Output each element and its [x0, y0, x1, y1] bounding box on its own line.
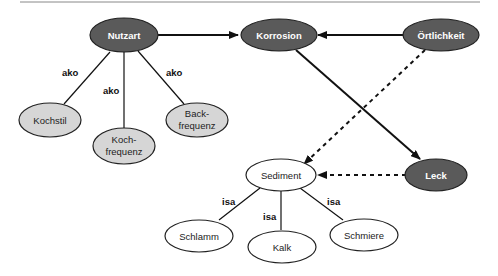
svg-text:frequenz: frequenz — [179, 120, 216, 131]
node-schmiere: Schmiere — [330, 219, 398, 251]
svg-text:Korrosion: Korrosion — [256, 30, 302, 41]
node-kochstil: Kochstil — [19, 103, 81, 137]
svg-text:Koch-: Koch- — [112, 134, 137, 145]
node-oertlichkeit: Örtlichkeit — [403, 19, 479, 51]
node-schlamm: Schlamm — [165, 220, 233, 252]
svg-text:Schmiere: Schmiere — [344, 230, 384, 241]
node-kalk: Kalk — [248, 231, 316, 263]
label-isa-schlamm: isa — [222, 196, 236, 207]
svg-text:Nutzart: Nutzart — [108, 30, 142, 41]
svg-text:frequenz: frequenz — [106, 146, 143, 157]
node-backfrequenz: Back- frequenz — [166, 103, 228, 137]
svg-text:Back-: Back- — [185, 108, 209, 119]
node-leck: Leck — [405, 159, 467, 191]
label-isa-kalk: isa — [263, 211, 277, 222]
node-sediment: Sediment — [246, 159, 316, 191]
label-ako-kochfrequenz: ako — [103, 85, 120, 96]
concept-diagram: ako ako ako isa isa isa Nutzart Korrosio… — [0, 0, 498, 276]
node-nutzart: Nutzart — [90, 18, 158, 52]
svg-text:Örtlichkeit: Örtlichkeit — [418, 30, 466, 41]
svg-text:Leck: Leck — [425, 170, 447, 181]
svg-text:Schlamm: Schlamm — [179, 231, 219, 242]
node-korrosion: Korrosion — [241, 19, 317, 51]
isa-edges — [219, 188, 343, 230]
edge-korrosion-leck — [296, 50, 420, 159]
label-ako-kochstil: ako — [62, 67, 79, 78]
label-ako-backfrequenz: ako — [166, 67, 183, 78]
svg-text:Sediment: Sediment — [261, 170, 301, 181]
node-kochfrequenz: Koch- frequenz — [93, 128, 155, 164]
label-isa-schmiere: isa — [327, 196, 341, 207]
svg-text:Kalk: Kalk — [273, 242, 292, 253]
svg-text:Kochstil: Kochstil — [33, 115, 66, 126]
